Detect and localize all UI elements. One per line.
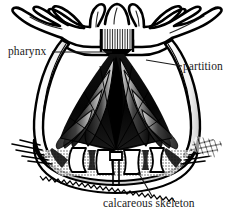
label-calcareous-skeleton: calcareous skeleton bbox=[103, 198, 195, 210]
label-pharynx: pharynx bbox=[8, 46, 46, 58]
label-partition: partition bbox=[183, 61, 223, 73]
coral-polyp-figure: pharynx partition calcareous skeleton bbox=[0, 0, 233, 213]
coral-polyp-illustration bbox=[0, 0, 233, 213]
